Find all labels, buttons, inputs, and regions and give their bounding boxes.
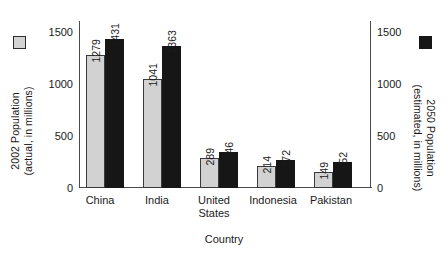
value-label-india-2050: 1363: [166, 30, 177, 53]
x-tick-label-indonesia: Indonesia: [240, 194, 306, 207]
value-label-china-2050: 1431: [109, 23, 120, 46]
value-label-india-2002: 1041: [147, 63, 158, 86]
value-label-united-states-2050: 346: [223, 142, 234, 160]
x-axis-title: Country: [0, 233, 448, 245]
value-labels-layer: 1279143110411363289346214272149252: [0, 0, 448, 258]
x-tick-label-united-states: United States: [185, 194, 243, 219]
value-label-indonesia-2002: 214: [261, 156, 272, 174]
value-label-china-2002: 1279: [90, 39, 101, 62]
x-tick-label-india: India: [128, 194, 186, 207]
value-label-pakistan-2002: 149: [318, 162, 329, 180]
bar-chart-figure: 2002 Population (actual, in millions) 20…: [0, 0, 448, 258]
value-label-pakistan-2050: 252: [337, 152, 348, 170]
x-tick-label-china: China: [71, 194, 129, 207]
value-label-united-states-2002: 289: [204, 148, 215, 166]
x-tick-label-pakistan: Pakistan: [300, 194, 362, 207]
value-label-indonesia-2050: 272: [280, 150, 291, 168]
